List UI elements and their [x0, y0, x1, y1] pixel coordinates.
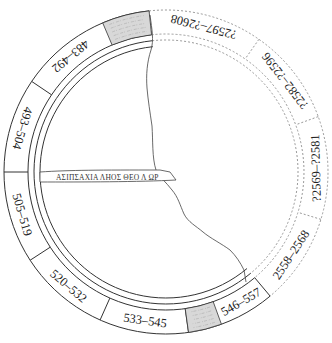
segment-533-545: 533–545 [122, 309, 188, 333]
shield-ring-diagram: 483–492493–504505–519520–532533–545546–5… [0, 0, 332, 343]
segment-label: 520–532 [47, 267, 89, 306]
segment-label: ?2569–?2581 [308, 134, 324, 202]
segment-divider [298, 212, 321, 219]
segment-2597-2608: ?2597–?2608 [149, 11, 238, 42]
segment-2582-2596: ?2582–?2596 [245, 39, 311, 111]
segment-2569-2581: ?2569–?2581 [296, 117, 324, 202]
fragment-top [103, 11, 152, 45]
segment-label: 533–545 [122, 311, 167, 331]
segment-divider [296, 117, 319, 125]
segment-divider [30, 247, 50, 260]
segment-2558-2568: 2558–2568 [270, 212, 321, 282]
segment-label: ?2597–?2608 [169, 12, 238, 42]
segment-label: 493–504 [9, 105, 35, 152]
segment-546-557: 546–557 [219, 278, 271, 319]
inscription-band: ΑΣΙΠΣΑΧΙΑ ΛΗΟΣ ΘΕΟ Λ ΩΡ [40, 170, 176, 182]
segment-label: 2558–2568 [270, 227, 313, 282]
inscription-text: ΑΣΙΠΣΑΧΙΑ ΛΗΟΣ ΘΕΟ Λ ΩΡ [56, 173, 159, 182]
segment-divider [245, 39, 259, 59]
segment-label: 483–492 [49, 37, 92, 76]
segment-divider [100, 298, 110, 320]
segment-493-504: 493–504 [4, 105, 36, 172]
segment-divider [32, 81, 52, 94]
segment-483-492: 483–492 [32, 37, 92, 95]
segment-label: 505–519 [9, 192, 35, 238]
segment-505-519: 505–519 [9, 192, 50, 261]
fracture-line [147, 15, 246, 282]
ring-arc-dashed [149, 10, 328, 296]
